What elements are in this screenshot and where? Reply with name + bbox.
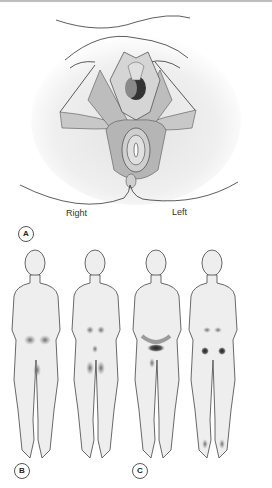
panel-c-back-figure	[189, 250, 237, 458]
panel-label-c: C	[132, 463, 148, 479]
figure-illustration	[0, 0, 272, 488]
panel-label-a: A	[18, 226, 34, 242]
panel-c-front-figure	[133, 250, 181, 458]
panel-a-anatomy	[20, 16, 241, 205]
panel-b-front-figure	[12, 250, 60, 458]
label-left: Left	[172, 207, 187, 217]
label-right: Right	[66, 208, 87, 218]
panel-b-back-figure	[72, 250, 120, 458]
panel-label-b: B	[14, 463, 30, 479]
